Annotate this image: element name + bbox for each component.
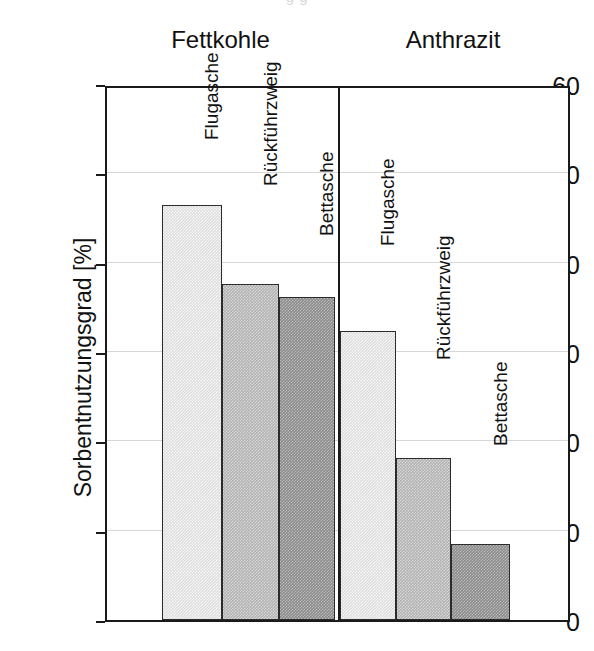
bar-fettkohle-bettasche[interactable] (279, 297, 335, 620)
tick-mark-50 (96, 174, 105, 176)
tick-mark-0 (96, 621, 105, 623)
bar-label-4: Rückführzweig (433, 235, 455, 360)
bar-label-5: Bettasche (490, 362, 512, 447)
tick-mark-60 (96, 85, 105, 87)
tick-mark-20 (96, 442, 105, 444)
bar-anthrazit-rckfhrzweig[interactable] (396, 458, 451, 620)
group-header-anthrazit: Anthrazit (336, 26, 570, 54)
tick-mark-10 (96, 532, 105, 534)
tick-mark-40 (96, 264, 105, 266)
bar-label-3: Flugasche (377, 158, 399, 246)
bar-label-2: Bettasche (316, 152, 338, 237)
bar-anthrazit-bettasche[interactable] (451, 544, 510, 620)
chart-figure: g g Fettkohle Anthrazit Sorbentnutzungsg… (0, 0, 594, 651)
y-axis-title: Sorbentnutzungsgrad [%] (70, 133, 97, 603)
group-header-fettkohle: Fettkohle (105, 26, 336, 54)
tick-mark-30 (96, 353, 105, 355)
bar-label-0: Flugasche (201, 52, 223, 140)
cropped-caption-remnant: g g (0, 0, 594, 5)
bar-fettkohle-flugasche[interactable] (162, 205, 222, 620)
plot-area: FlugascheRückführzweigBettascheFlugasche… (105, 86, 570, 622)
bar-fettkohle-rckfhrzweig[interactable] (222, 284, 279, 620)
bar-label-1: Rückführzweig (260, 61, 282, 186)
bar-anthrazit-flugasche[interactable] (340, 331, 396, 620)
